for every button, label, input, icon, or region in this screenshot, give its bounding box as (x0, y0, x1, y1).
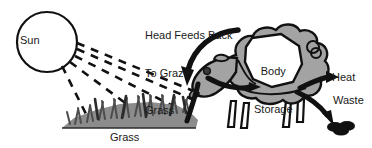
waste-label: Waste (333, 94, 364, 107)
body-storage-label: Body Storage (254, 40, 293, 140)
waste-droppings (327, 121, 355, 136)
body-storage-label-line1: Body (254, 65, 293, 78)
feedback-label-line2: To Graze (145, 67, 232, 80)
grass-label: Grass (110, 131, 139, 144)
feedback-label: Head Feeds Back To Graze Grass (145, 4, 232, 142)
feedback-label-line3: Grass (145, 104, 232, 117)
feedback-label-line1: Head Feeds Back (145, 29, 232, 42)
heat-label: Heat (332, 71, 355, 84)
body-storage-label-line2: Storage (254, 103, 293, 116)
sun-label: Sun (20, 34, 40, 47)
diagram-canvas: Sun Head Feeds Back To Graze Grass Body … (0, 0, 372, 148)
